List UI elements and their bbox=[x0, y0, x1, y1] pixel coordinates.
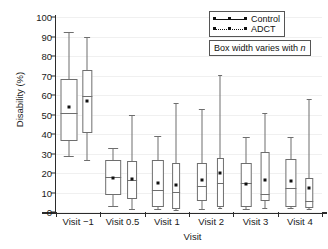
y-tick-label: 80 bbox=[41, 51, 52, 62]
gridline bbox=[56, 76, 322, 77]
box-plot-adct bbox=[83, 17, 92, 212]
whisker-upper bbox=[309, 99, 310, 178]
whisker-lower bbox=[131, 199, 132, 209]
whisker-cap-upper bbox=[64, 32, 75, 33]
legend-label-adct: ADCT bbox=[251, 24, 276, 34]
mean-marker bbox=[245, 182, 248, 185]
boxplot-chart: Disability (%) Visit 0102030405060708090… bbox=[0, 0, 328, 249]
whisker-cap-upper bbox=[219, 75, 223, 76]
whisker-cap-lower bbox=[219, 208, 223, 209]
whisker-cap-lower bbox=[243, 209, 250, 210]
whisker-upper bbox=[201, 109, 202, 164]
whisker-cap-upper bbox=[307, 99, 312, 100]
x-axis-title: Visit bbox=[60, 231, 325, 242]
y-tick-label: 90 bbox=[41, 31, 52, 42]
median-line bbox=[172, 192, 180, 193]
mean-marker bbox=[175, 183, 178, 186]
gridline bbox=[56, 56, 322, 57]
x-axis-group-separator bbox=[100, 212, 101, 217]
legend-entry-adct: ADCT bbox=[213, 24, 280, 34]
gridline bbox=[56, 173, 322, 174]
y-tick-label: 20 bbox=[41, 168, 52, 179]
x-axis-group-separator bbox=[56, 212, 57, 217]
whisker-cap-lower bbox=[262, 208, 267, 209]
mean-marker bbox=[130, 177, 133, 180]
y-tick-label: 100 bbox=[36, 12, 52, 23]
mean-marker bbox=[86, 99, 89, 102]
iqr-box bbox=[285, 159, 296, 207]
whisker-cap-upper bbox=[262, 113, 267, 114]
gridline bbox=[56, 95, 322, 96]
y-tick-label: 50 bbox=[41, 109, 52, 120]
legend-entry-control: Control bbox=[213, 14, 280, 24]
note-symbol: n bbox=[301, 43, 306, 53]
y-tick-label: 60 bbox=[41, 90, 52, 101]
mean-marker bbox=[112, 176, 115, 179]
control-line-icon bbox=[213, 15, 247, 24]
whisker-upper bbox=[131, 115, 132, 161]
x-axis-category-label: Visit 2 bbox=[198, 216, 224, 227]
iqr-box bbox=[60, 79, 77, 140]
mean-marker bbox=[156, 181, 159, 184]
y-tick-label: 10 bbox=[41, 187, 52, 198]
y-axis-title: Disability (%) bbox=[14, 50, 25, 150]
mean-marker bbox=[219, 172, 222, 175]
iqr-box bbox=[197, 163, 207, 201]
whisker-lower bbox=[201, 201, 202, 209]
box-plot-control bbox=[60, 17, 77, 212]
x-axis-category-label: Visit 0.5 bbox=[106, 216, 140, 227]
mean-marker bbox=[263, 178, 266, 181]
whisker-cap-upper bbox=[129, 115, 135, 116]
mean-marker bbox=[67, 105, 70, 108]
x-axis-category-label: Visit 3 bbox=[243, 216, 269, 227]
median-line bbox=[151, 190, 163, 191]
whisker-cap-lower bbox=[129, 209, 135, 210]
gridline bbox=[56, 134, 322, 135]
whisker-cap-lower bbox=[64, 156, 75, 157]
whisker-cap-upper bbox=[174, 103, 179, 104]
box-plot-adct bbox=[127, 17, 137, 212]
mean-marker bbox=[200, 178, 203, 181]
whisker-cap-upper bbox=[108, 148, 118, 149]
y-tick-label: 70 bbox=[41, 70, 52, 81]
whisker-cap-lower bbox=[287, 208, 294, 209]
whisker-upper bbox=[264, 113, 265, 152]
whisker-cap-upper bbox=[287, 137, 294, 138]
x-axis-category-label: Visit 1 bbox=[154, 216, 180, 227]
whisker-upper bbox=[113, 148, 114, 161]
median-line bbox=[260, 194, 269, 195]
whisker-cap-lower bbox=[307, 209, 312, 210]
whisker-upper bbox=[157, 136, 158, 160]
whisker-cap-lower bbox=[174, 210, 179, 211]
median-line bbox=[197, 186, 207, 187]
whisker-upper bbox=[176, 103, 177, 163]
median-line bbox=[305, 201, 312, 202]
x-axis-group-separator bbox=[322, 212, 323, 217]
box-width-note: Box width varies with n bbox=[209, 40, 311, 56]
whisker-lower bbox=[87, 133, 88, 160]
x-axis-group-separator bbox=[278, 212, 279, 217]
box-plot-control bbox=[105, 17, 121, 212]
box-plot-control bbox=[151, 17, 163, 212]
y-tick-label: 40 bbox=[41, 129, 52, 140]
note-prefix: Box width varies with bbox=[214, 43, 298, 53]
x-axis-category-label: Visit −1 bbox=[63, 216, 94, 227]
median-line bbox=[217, 183, 223, 184]
gridline bbox=[56, 115, 322, 116]
whisker-cap-lower bbox=[108, 206, 118, 207]
whisker-cap-upper bbox=[243, 137, 250, 138]
legend-label-control: Control bbox=[251, 14, 280, 24]
median-line bbox=[83, 96, 92, 97]
y-tick-label: 30 bbox=[41, 148, 52, 159]
gridline bbox=[56, 154, 322, 155]
box-plot-control bbox=[197, 17, 207, 212]
mean-marker bbox=[308, 186, 311, 189]
whisker-upper bbox=[246, 137, 247, 163]
whisker-lower bbox=[68, 141, 69, 157]
whisker-lower bbox=[264, 201, 265, 208]
chart-legend: Control ADCT bbox=[209, 11, 285, 37]
whisker-upper bbox=[68, 32, 69, 80]
gridline bbox=[56, 193, 322, 194]
whisker-cap-upper bbox=[85, 37, 91, 38]
x-axis-category-label: Visit 4 bbox=[287, 216, 313, 227]
